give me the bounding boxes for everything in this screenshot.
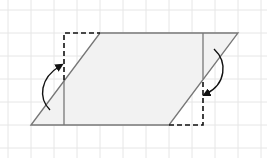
parallelogram-area-diagram [0, 0, 267, 158]
